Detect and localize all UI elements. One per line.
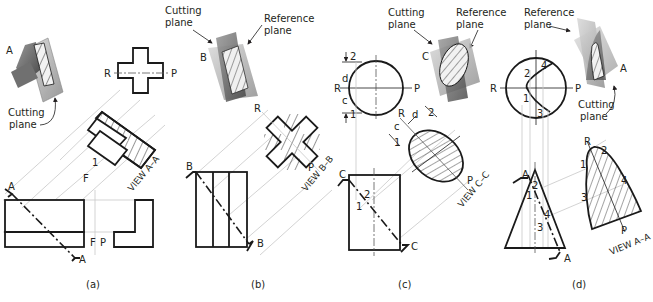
p-label-c: P: [414, 83, 420, 94]
p-label-d: P: [575, 83, 581, 94]
point-2-d-top: 2: [524, 68, 530, 79]
section-letter-c: C: [422, 51, 429, 62]
c-label-c-section: c: [394, 121, 400, 132]
point-1-a: 1: [92, 157, 98, 168]
c-label-c: c: [342, 95, 348, 106]
r-label-d: R: [490, 83, 497, 94]
caption-b: (b): [251, 279, 265, 290]
cutting-plane-label-d: Cutting: [578, 99, 615, 110]
cutting-plane-label-b-2: plane: [165, 17, 193, 28]
r-label-d-section: R: [584, 136, 591, 147]
cutting-plane-label-b: Cutting: [165, 5, 202, 16]
panel-c: Cutting plane Reference plane C R P d c …: [334, 7, 506, 290]
fold-p-label: P: [100, 237, 106, 248]
parabola-top-d: [526, 63, 553, 112]
point-2-c-front: 2: [364, 189, 370, 200]
caption-d: (d): [572, 279, 586, 290]
reference-plane-label-b-2: plane: [264, 25, 292, 36]
reference-plane-label-c: Reference: [456, 7, 506, 18]
r-label-b: R: [104, 68, 111, 79]
section-letter-d-bottom: A: [564, 253, 571, 264]
auxiliary-section-figure: A Cutting plane 1 F VIEW A–A: [0, 0, 653, 302]
section-letter-c-top: C: [339, 169, 346, 180]
cutting-plane-label-d-2: plane: [580, 111, 608, 122]
p-label-d-section: P: [621, 225, 627, 236]
point-4-d-top: 4: [541, 60, 547, 71]
cutting-plane-label-a-2: plane: [9, 119, 37, 130]
cutting-plane-label-c-2: plane: [388, 19, 416, 30]
fold-f-label: F: [90, 237, 96, 248]
r-label-b-section: R: [254, 103, 261, 114]
point-3-d-front: 3: [537, 222, 543, 233]
reference-plane-label-d: Reference: [524, 7, 574, 18]
reference-plane-label-b: Reference: [264, 13, 314, 24]
point-2-c-section: 2: [428, 107, 434, 118]
front-view-c: [338, 168, 408, 256]
arrow-icon: [414, 30, 432, 44]
reference-plane-label-c-2: plane: [456, 19, 484, 30]
pictorial-d: [574, 18, 618, 88]
section-letter-b-top: B: [186, 161, 193, 172]
arrow-icon: [193, 30, 212, 43]
pictorial-b: [208, 32, 258, 102]
caption-a: (a): [86, 279, 100, 290]
point-1-d-section: 1: [580, 159, 586, 170]
r-label-c-section: R: [398, 108, 405, 119]
point-4-d-front: 4: [544, 209, 550, 220]
panel-d: Reference plane A Cutting plane R P 4 2 …: [490, 7, 652, 290]
section-letter-d: A: [620, 63, 627, 74]
point-1-c-top: 1: [350, 109, 356, 120]
point-1-c-section: 1: [394, 137, 400, 148]
r-label-c: R: [334, 83, 341, 94]
section-letter-a-bottom: A: [79, 254, 86, 265]
caption-c: (c): [398, 279, 411, 290]
d-label-c-section: d: [412, 109, 418, 120]
point-2-d-section: 2: [601, 145, 607, 156]
front-view-d: [505, 162, 565, 259]
section-letter-d-top: A: [522, 169, 529, 180]
panel-a: A Cutting plane 1 F VIEW A–A: [3, 38, 165, 290]
point-3-d-top: 3: [537, 108, 543, 119]
section-letter-b: B: [200, 52, 207, 63]
point-2-c-top: 2: [350, 51, 356, 62]
reference-plane-label-d-2: plane: [524, 19, 552, 30]
point-2-d-front: 2: [532, 180, 538, 191]
top-view-cross-b: [118, 48, 163, 93]
p-label-b: P: [171, 68, 177, 79]
arrow-icon: [549, 26, 570, 31]
section-letter-b-bottom: B: [257, 238, 264, 249]
pictorial-c: [430, 36, 480, 102]
d-label-c: d: [342, 73, 348, 84]
section-letter-c-bottom: C: [411, 241, 418, 252]
cutting-plane-label-c: Cutting: [388, 7, 425, 18]
view-label-c: VIEW C–C: [456, 170, 492, 210]
cutting-plane-label-a: Cutting: [8, 107, 45, 118]
side-view-a: [114, 200, 153, 247]
fold-f-a: F: [83, 173, 89, 184]
point-4-d-section: 4: [621, 175, 627, 186]
point-1-c-front: 1: [356, 201, 362, 212]
section-view-d: [586, 140, 641, 232]
point-3-d-section: 3: [581, 192, 587, 203]
section-view-b: [236, 86, 348, 198]
point-1-d-front: 1: [526, 190, 532, 201]
section-letter-a-top: A: [8, 181, 15, 192]
section-letter-a: A: [6, 45, 13, 56]
arrow-icon: [248, 25, 262, 44]
view-label-d: VIEW A–A: [608, 231, 652, 257]
front-view-a: [5, 189, 84, 261]
pictorial-a: [11, 38, 63, 102]
point-1-d-top: 1: [523, 93, 529, 104]
